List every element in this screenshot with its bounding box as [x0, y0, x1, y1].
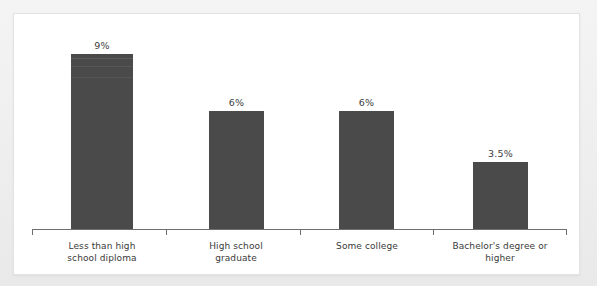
x-axis-tick-0 — [32, 229, 33, 235]
category-label-high-school-graduate: High school graduate — [176, 240, 296, 264]
category-label-some-college: Some college — [307, 240, 427, 252]
x-axis-tick-4 — [566, 229, 567, 235]
chart-card: 9% 6% 6% 3.5% Less than high school dipl… — [13, 13, 580, 275]
bar-chart-plot-area: 9% 6% 6% 3.5% Less than high school dipl… — [14, 14, 579, 274]
category-label-line-2: graduate — [176, 252, 296, 264]
bar-value-label-2: 6% — [339, 97, 394, 108]
x-axis-tick-3 — [433, 229, 434, 235]
x-axis-tick-1 — [166, 229, 167, 235]
category-label-line-2: higher — [440, 252, 560, 264]
bar-bachelors-degree-or-higher[interactable] — [473, 162, 528, 229]
bar-value-label-1: 6% — [209, 97, 264, 108]
category-label-line-1: High school — [176, 240, 296, 252]
category-label-line-1: Some college — [307, 240, 427, 252]
bar-less-than-high-school-diploma[interactable] — [71, 54, 133, 229]
category-label-less-than-high-school-diploma: Less than high school diploma — [42, 240, 162, 264]
category-label-line-1: Less than high — [42, 240, 162, 252]
x-axis-line — [32, 229, 566, 230]
bar-high-school-graduate[interactable] — [209, 111, 264, 229]
bar-value-label-0: 9% — [71, 40, 133, 51]
bar-some-college[interactable] — [339, 111, 394, 229]
category-label-line-1: Bachelor's degree or — [440, 240, 560, 252]
category-label-line-2: school diploma — [42, 252, 162, 264]
category-label-bachelors-degree-or-higher: Bachelor's degree or higher — [440, 240, 560, 264]
x-axis-tick-2 — [300, 229, 301, 235]
bar-value-label-3: 3.5% — [473, 148, 528, 159]
